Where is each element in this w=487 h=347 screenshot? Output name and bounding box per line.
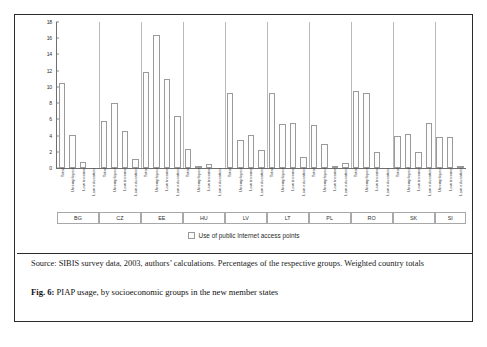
figure-page: 024681012141618 TotalUnemployedLow incom… [0, 0, 487, 347]
x-tick-label: Unemployed [323, 168, 327, 192]
chart-area: 024681012141618 TotalUnemployedLow incom… [16, 16, 471, 252]
country-label-pl: PL [309, 212, 351, 224]
bar-sk-2 [415, 152, 422, 168]
y-tick-label: 18 [47, 19, 52, 25]
x-tick-label: Unemployed [113, 168, 117, 192]
bar-sk-3 [426, 123, 433, 168]
country-label-ee: EE [141, 212, 183, 224]
x-tick-label: Low education [459, 168, 463, 196]
bar-cz-2 [122, 131, 129, 168]
bar-lt-3 [300, 157, 307, 168]
group-separator [393, 22, 394, 168]
figure-caption: Fig. 6: PIAP usage, by socioeconomic gro… [31, 287, 459, 299]
bar-pl-1 [321, 144, 328, 168]
x-tick-label: Unemployed [438, 168, 442, 192]
bar-ee-3 [174, 116, 181, 168]
bar-bg-1 [69, 135, 76, 168]
x-tick-label: Low income [333, 168, 337, 191]
y-tick-label: 6 [49, 116, 52, 122]
source-note: Source: SIBIS survey data, 2003, authors… [31, 258, 459, 270]
x-tick-label: Low income [207, 168, 211, 191]
x-tick-label: Low income [417, 168, 421, 191]
y-tick-label: 16 [47, 35, 52, 41]
caption-text: PIAP usage, by socioeconomic groups in t… [57, 287, 279, 297]
x-tick-label: Unemployed [71, 168, 75, 192]
x-tick-label: Total [228, 168, 232, 177]
y-tick-label: 0 [49, 165, 52, 171]
x-tick-label: Total [103, 168, 107, 177]
legend-swatch-icon [188, 232, 195, 239]
x-tick-label: Unemployed [407, 168, 411, 192]
x-tick-label: Unemployed [239, 168, 243, 192]
x-tick-label: Low income [249, 168, 253, 191]
country-group-labels: BGCZEEHULVLTPLROSKSI [57, 212, 466, 224]
bar-si-1 [447, 137, 454, 168]
y-tick-label: 12 [47, 68, 52, 74]
x-tick-label: Low education [344, 168, 348, 196]
bar-ee-2 [164, 79, 171, 168]
bar-ro-1 [363, 93, 370, 168]
bar-lt-1 [279, 124, 286, 168]
x-tick-label: Low education [134, 168, 138, 196]
bar-cz-3 [132, 159, 139, 168]
plot-bars [57, 22, 466, 168]
bar-lv-1 [237, 140, 244, 168]
bar-cz-1 [111, 103, 118, 168]
country-label-sk: SK [393, 212, 435, 224]
bar-lt-0 [269, 93, 276, 168]
x-tick-label: Low income [123, 168, 127, 191]
bar-ee-0 [143, 72, 150, 168]
group-separator [99, 22, 100, 168]
group-separator [435, 22, 436, 168]
x-tick-label: Low income [291, 168, 295, 191]
y-axis: 024681012141618 [34, 22, 56, 168]
bar-ee-1 [153, 35, 160, 168]
bar-cz-0 [101, 121, 108, 168]
x-tick-label: Total [396, 168, 400, 177]
x-tick-label: Low education [260, 168, 264, 196]
figure-frame: 024681012141618 TotalUnemployedLow incom… [14, 14, 473, 322]
x-tick-label: Unemployed [155, 168, 159, 192]
x-tick-label: Low income [375, 168, 379, 191]
country-label-hu: HU [183, 212, 225, 224]
x-tick-label: Total [186, 168, 190, 177]
bar-ro-0 [353, 91, 360, 168]
country-label-lv: LV [225, 212, 267, 224]
group-separator [309, 22, 310, 168]
x-axis-labels: TotalUnemployedLow incomeLow educationTo… [57, 168, 466, 214]
group-separator [141, 22, 142, 168]
plot-wrapper: 024681012141618 [34, 22, 466, 182]
country-label-ro: RO [351, 212, 393, 224]
x-tick-label: Total [61, 168, 65, 177]
x-tick-label: Low education [386, 168, 390, 196]
country-label-bg: BG [57, 212, 99, 224]
x-tick-label: Total [354, 168, 358, 177]
x-tick-label: Low education [428, 168, 432, 196]
legend-label: Use of public Internet access points [199, 232, 300, 239]
y-tick-label: 8 [49, 100, 52, 106]
bar-bg-0 [59, 83, 66, 168]
bar-hu-0 [185, 149, 192, 168]
country-label-cz: CZ [99, 212, 141, 224]
x-tick-label: Low education [176, 168, 180, 196]
x-tick-label: Low education [302, 168, 306, 196]
caption-number: Fig. 6: [31, 287, 54, 297]
x-tick-label: Total [270, 168, 274, 177]
y-tick-label: 4 [49, 133, 52, 139]
group-separator [183, 22, 184, 168]
chart-legend: Use of public Internet access points [16, 228, 471, 242]
bar-lv-3 [258, 150, 265, 168]
bar-lv-0 [227, 93, 234, 168]
bar-lt-2 [290, 123, 297, 168]
x-tick-label: Total [144, 168, 148, 177]
y-tick-label: 10 [47, 84, 52, 90]
bar-ro-2 [374, 152, 381, 168]
country-label-lt: LT [267, 212, 309, 224]
bar-si-0 [436, 137, 443, 168]
x-tick-label: Low income [165, 168, 169, 191]
group-separator [267, 22, 268, 168]
x-tick-label: Low education [92, 168, 96, 196]
group-separator [351, 22, 352, 168]
chart-divider [17, 253, 472, 254]
x-tick-label: Total [312, 168, 316, 177]
